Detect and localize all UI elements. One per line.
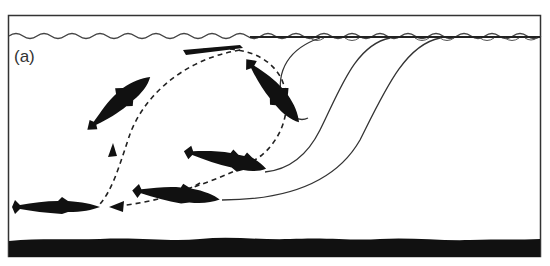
return-path-lower	[100, 50, 240, 204]
diagram-frame	[9, 16, 541, 257]
arrow-up-icon	[108, 143, 117, 157]
diagram-canvas: (a)	[0, 0, 550, 266]
return-path-upper	[170, 49, 286, 195]
bottom-substrate	[9, 238, 540, 257]
fish-striking	[238, 50, 310, 129]
fish-rising	[78, 66, 157, 138]
fish-descending	[182, 140, 269, 178]
fish-feeding-diagram: (a)	[0, 0, 550, 266]
fish-resting	[12, 197, 100, 214]
arrow-left-icon	[109, 201, 124, 212]
panel-label: (a)	[14, 47, 35, 66]
